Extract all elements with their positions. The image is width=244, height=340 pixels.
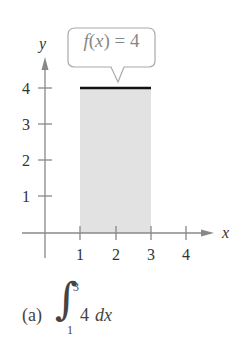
integral-lower-limit: 1 [67,323,73,338]
y-axis-label: y [39,36,46,52]
integrand: 4 [80,305,89,326]
differential: dx [95,305,112,326]
y-axis-arrow-icon [42,57,49,70]
y-tick-label: 3 [22,117,30,133]
integral-upper-limit: 3 [73,280,79,295]
x-tick-label: 2 [112,247,120,263]
y-tick-label: 1 [22,189,30,205]
y-tick-label: 2 [22,153,30,169]
x-tick-label: 3 [147,247,155,263]
callout-label: f(x) = 4 [68,30,155,52]
shaded-area [80,88,151,233]
caption-part-label: (a) [22,305,42,326]
x-tick-label: 1 [76,247,84,263]
x-axis-arrow-icon [201,230,214,237]
x-tick-label: 4 [182,247,190,263]
x-axis-label: x [222,225,229,241]
y-tick-label: 4 [22,81,30,97]
